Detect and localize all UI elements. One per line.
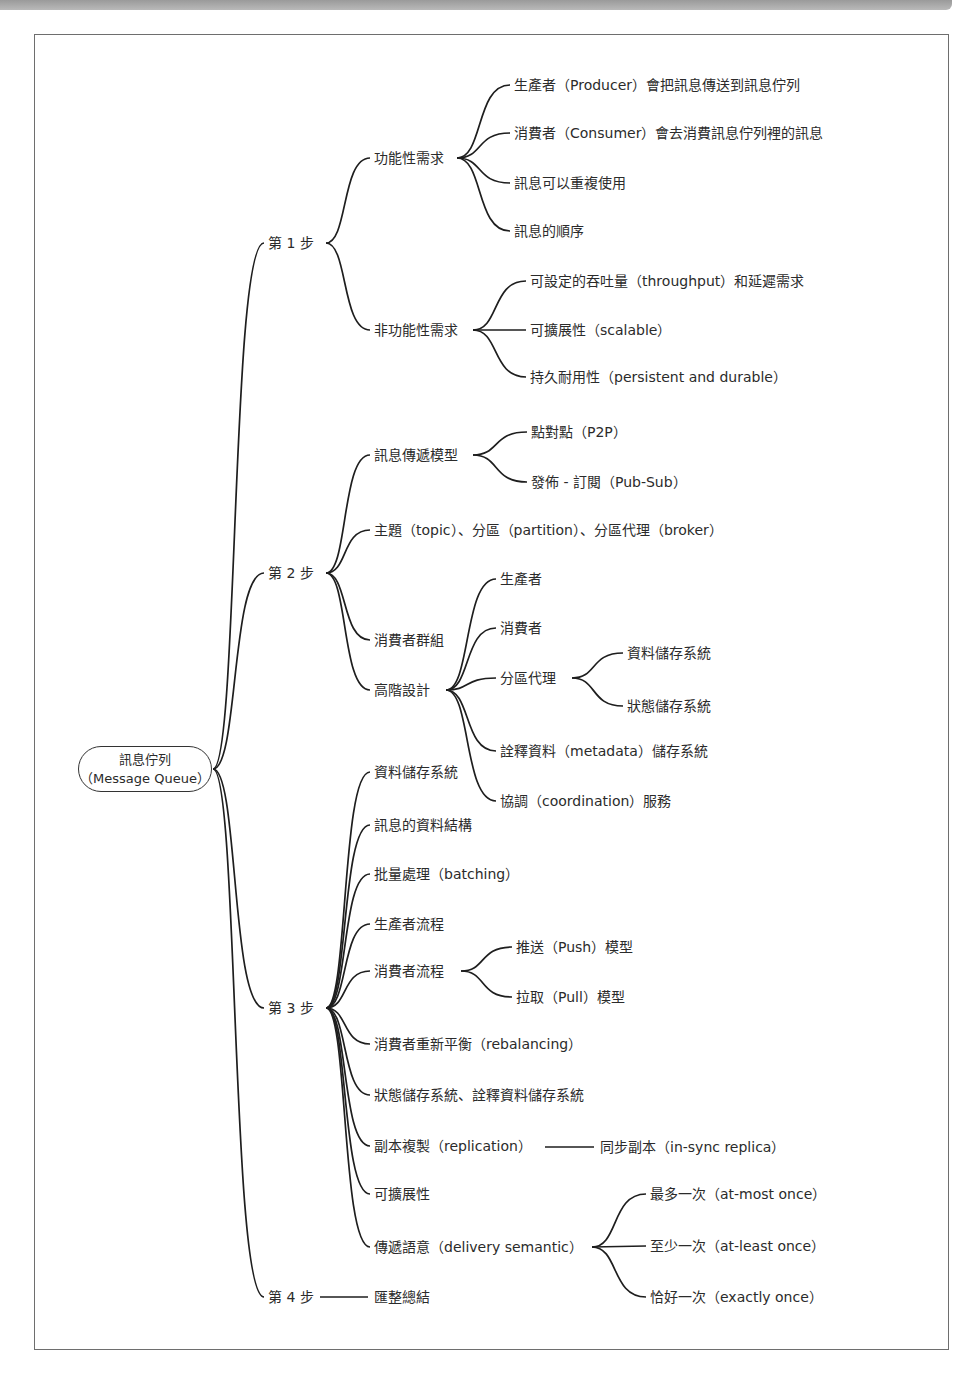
leaf-node: 狀態儲存系統 — [627, 697, 711, 715]
root-title: 訊息佇列 — [79, 750, 211, 769]
replication-node: 副本複製（replication） — [374, 1137, 532, 1155]
leaf-node: 狀態儲存系統、詮釋資料儲存系統 — [374, 1086, 584, 1104]
connector-line — [446, 690, 496, 751]
delivery-semantic-node: 傳遞語意（delivery semantic） — [374, 1238, 583, 1256]
high-level-design-node: 高階設計 — [374, 681, 430, 699]
broker-node: 分區代理 — [500, 669, 556, 687]
connector-line — [473, 281, 526, 330]
step-1-node: 第 1 步 — [268, 234, 314, 252]
leaf-node: 可擴展性（scalable） — [530, 321, 671, 339]
mindmap-connectors — [0, 0, 976, 1379]
leaf-node: 消費者（Consumer）會去消費訊息佇列裡的訊息 — [514, 124, 823, 142]
connector-line — [461, 971, 512, 997]
consumer-flow-node: 消費者流程 — [374, 962, 444, 980]
leaf-node: 消費者重新平衡（rebalancing） — [374, 1035, 582, 1053]
leaf-node: 批量處理（batching） — [374, 865, 519, 883]
connector-line — [473, 455, 527, 482]
connector-line — [326, 1008, 370, 1095]
leaf-node: 訊息的資料結構 — [374, 816, 472, 834]
messaging-model-node: 訊息傳遞模型 — [374, 446, 458, 464]
leaf-node: 訊息的順序 — [514, 222, 584, 240]
connector-line — [326, 1008, 370, 1194]
connector-line — [572, 653, 623, 678]
root-subtitle: （Message Queue） — [79, 769, 211, 788]
root-to-step-connector — [213, 769, 264, 1008]
connector-line — [326, 158, 370, 243]
connector-line — [457, 158, 510, 231]
leaf-node: 至少一次（at-least once） — [650, 1237, 825, 1255]
topic-partition-broker-node: 主題（topic）、分區（partition）、分區代理（broker） — [374, 521, 723, 539]
connector-line — [473, 330, 526, 377]
root-to-step-connector — [213, 573, 264, 769]
leaf-node: 匯整總結 — [374, 1288, 430, 1306]
connector-line — [326, 924, 370, 1008]
leaf-node: 恰好一次（exactly once） — [650, 1288, 823, 1306]
connector-line — [446, 579, 496, 690]
connector-line — [592, 1247, 646, 1297]
leaf-node: 資料儲存系統 — [374, 763, 458, 781]
leaf-node: 協調（coordination）服務 — [500, 792, 671, 810]
root-node: 訊息佇列 （Message Queue） — [78, 746, 212, 792]
leaf-node: 發佈 - 訂閱（Pub-Sub） — [531, 473, 687, 491]
connector-line — [326, 530, 370, 573]
step-2-node: 第 2 步 — [268, 564, 314, 582]
connector-line — [473, 432, 527, 455]
connector-line — [592, 1194, 646, 1247]
connector-line — [592, 1246, 646, 1247]
root-to-step-connector — [213, 243, 264, 769]
leaf-node: 生產者（Producer）會把訊息傳送到訊息佇列 — [514, 76, 800, 94]
leaf-node: 可擴展性 — [374, 1185, 430, 1203]
connector-line — [461, 947, 512, 971]
step-4-node: 第 4 步 — [268, 1288, 314, 1306]
leaf-node: 訊息可以重複使用 — [514, 174, 626, 192]
connector-line — [572, 678, 623, 706]
leaf-node: 可設定的吞吐量（throughput）和延遲需求 — [530, 272, 804, 290]
consumer-group-node: 消費者群組 — [374, 631, 444, 649]
functional-requirements-node: 功能性需求 — [374, 149, 444, 167]
connector-line — [326, 573, 370, 640]
connector-line — [326, 455, 370, 573]
leaf-node: 詮釋資料（metadata）儲存系統 — [500, 742, 708, 760]
leaf-node: 推送（Push）模型 — [516, 938, 633, 956]
leaf-node: 點對點（P2P） — [531, 423, 627, 441]
connector-line — [326, 243, 370, 330]
step-3-node: 第 3 步 — [268, 999, 314, 1017]
leaf-node: 同步副本（in-sync replica） — [600, 1138, 785, 1156]
connector-line — [446, 628, 496, 690]
leaf-node: 最多一次（at-most once） — [650, 1185, 826, 1203]
leaf-node: 資料儲存系統 — [627, 644, 711, 662]
connector-line — [326, 573, 370, 690]
leaf-node: 持久耐用性（persistent and durable） — [530, 368, 787, 386]
connector-line — [457, 85, 510, 158]
leaf-node: 生產者流程 — [374, 915, 444, 933]
leaf-node: 拉取（Pull）模型 — [516, 988, 625, 1006]
root-to-step-connector — [213, 769, 264, 1297]
non-functional-requirements-node: 非功能性需求 — [374, 321, 458, 339]
leaf-node: 消費者 — [500, 619, 542, 637]
leaf-node: 生產者 — [500, 570, 542, 588]
connector-line — [446, 690, 496, 801]
